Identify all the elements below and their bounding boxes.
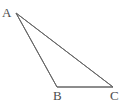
triangle-edge-ac bbox=[16, 13, 113, 87]
triangle-diagram-svg bbox=[0, 0, 128, 107]
vertex-label-b: B bbox=[53, 89, 62, 102]
triangle-edge-ab bbox=[16, 13, 57, 87]
vertex-label-c: C bbox=[110, 89, 119, 102]
triangle-figure: A B C bbox=[0, 0, 128, 107]
vertex-label-a: A bbox=[2, 6, 11, 19]
